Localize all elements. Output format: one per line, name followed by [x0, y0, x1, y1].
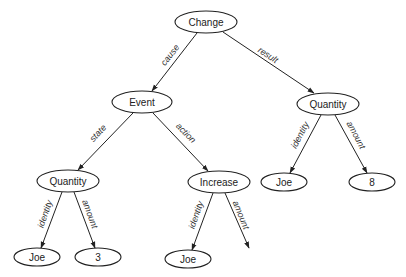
edge-action-arrow: action [153, 113, 208, 171]
edge-label: identity [289, 120, 311, 150]
node-label: Increase [200, 177, 239, 188]
edge-label: identity [187, 199, 206, 230]
semantic-network-diagram: causeresultstateactionidentityamountiden… [0, 0, 406, 277]
node-three: 3 [75, 248, 121, 266]
edge-amount-arrow: amount [335, 115, 368, 173]
node-label: Quantity [49, 176, 86, 187]
node-label: 3 [95, 252, 101, 263]
edge-label: amount [231, 199, 252, 231]
node-label: Joe [29, 252, 46, 263]
arrow-icon [223, 32, 314, 93]
edge-amount-arrow: amount [225, 193, 251, 248]
edge-label: amount [345, 119, 368, 151]
node-label: Change [188, 17, 223, 28]
edge-label: state [88, 122, 109, 143]
edge-state-arrow: state [78, 113, 133, 170]
edges-layer: causeresultstateactionidentityamountiden… [36, 32, 368, 250]
edge-identity-arrow: identity [187, 193, 213, 250]
nodes-layer: ChangeEventQuantityQuantityIncreaseJoe8J… [14, 11, 395, 268]
node-joe_r: Joe [261, 173, 307, 191]
node-increase: Increase [188, 171, 250, 193]
node-label: Joe [276, 177, 293, 188]
arrow-icon [78, 113, 133, 170]
edge-label: amount [80, 198, 100, 230]
edge-amount-arrow: amount [74, 192, 100, 248]
node-joe_ll: Joe [14, 248, 60, 266]
node-quantity_l: Quantity [37, 170, 99, 192]
node-label: Joe [180, 254, 197, 265]
node-joe_inc: Joe [165, 250, 211, 268]
node-label: 8 [369, 177, 375, 188]
node-event: Event [112, 91, 172, 113]
edge-result-arrow: result [223, 32, 314, 93]
node-eight: 8 [349, 173, 395, 191]
node-label: Event [129, 97, 155, 108]
edge-label: identity [36, 198, 55, 229]
edge-identity-arrow: identity [36, 192, 62, 248]
node-label: Quantity [309, 99, 346, 110]
node-change: Change [175, 11, 237, 33]
edge-cause-arrow: cause [152, 33, 197, 91]
edge-label: action [174, 121, 198, 145]
node-quantity_r: Quantity [297, 93, 359, 115]
edge-label: cause [159, 42, 182, 67]
edge-identity-arrow: identity [289, 115, 321, 173]
